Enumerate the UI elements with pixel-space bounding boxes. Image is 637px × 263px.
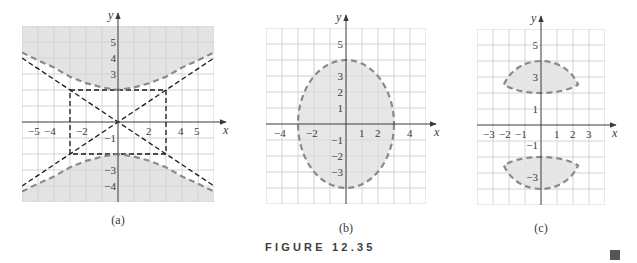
x-axis-label: x	[433, 125, 440, 139]
svg-text:−3: −3	[104, 164, 116, 176]
svg-text:3: 3	[586, 128, 592, 140]
panel-c-intersection: x y −3 −2 −1 1 2 3 5 3 1 −1 −3 (c)	[477, 11, 618, 235]
y-axis-label: y	[530, 11, 537, 25]
svg-text:−3: −3	[483, 128, 495, 140]
panel-label: (a)	[111, 213, 124, 227]
svg-text:−2: −2	[331, 150, 343, 162]
figure-caption: FIGURE 12.35	[265, 241, 376, 253]
svg-text:4: 4	[407, 127, 413, 139]
svg-text:−1: −1	[515, 128, 527, 140]
svg-text:2: 2	[570, 128, 576, 140]
figure-12-35: x y −5 −4 −2 2 4 5 5 4 3 −1 −3 −4 (a)	[0, 0, 637, 263]
svg-text:−4: −4	[274, 127, 286, 139]
y-axis-label: y	[335, 10, 342, 24]
panel-a-hyperbola: x y −5 −4 −2 2 4 5 5 4 3 −1 −3 −4 (a)	[22, 8, 229, 227]
svg-text:−5: −5	[28, 125, 40, 137]
svg-text:5: 5	[338, 38, 344, 50]
svg-text:2: 2	[338, 86, 344, 98]
svg-text:−1: −1	[526, 139, 538, 151]
svg-text:1: 1	[338, 102, 344, 114]
x-axis-label: x	[222, 123, 229, 137]
svg-text:−4: −4	[104, 180, 116, 192]
x-axis-label: x	[611, 126, 618, 140]
svg-text:2: 2	[146, 125, 152, 137]
panel-b-ellipse: x y −4 −2 1 2 4 5 3 2 1 −1 −2 −3 (b)	[266, 10, 440, 235]
svg-text:1: 1	[533, 103, 539, 115]
svg-text:4: 4	[111, 52, 117, 64]
svg-text:−3: −3	[331, 166, 343, 178]
svg-text:2: 2	[375, 127, 381, 139]
svg-text:5: 5	[111, 36, 117, 48]
svg-text:−2: −2	[499, 128, 511, 140]
svg-text:5: 5	[533, 39, 539, 51]
svg-text:3: 3	[111, 68, 117, 80]
svg-text:1: 1	[359, 127, 365, 139]
svg-text:−2: −2	[76, 125, 88, 137]
svg-text:−2: −2	[306, 127, 318, 139]
svg-text:−3: −3	[526, 171, 538, 183]
y-axis-label: y	[107, 8, 114, 22]
svg-text:1: 1	[554, 128, 560, 140]
svg-text:3: 3	[338, 70, 344, 82]
svg-text:−1: −1	[104, 132, 116, 144]
end-of-example-marker	[610, 250, 620, 260]
svg-text:3: 3	[533, 71, 539, 83]
svg-text:5: 5	[194, 125, 200, 137]
panel-label: (c)	[534, 221, 547, 235]
svg-text:−4: −4	[44, 125, 56, 137]
panel-label: (b)	[339, 221, 353, 235]
svg-text:4: 4	[178, 125, 184, 137]
svg-text:−1: −1	[331, 134, 343, 146]
